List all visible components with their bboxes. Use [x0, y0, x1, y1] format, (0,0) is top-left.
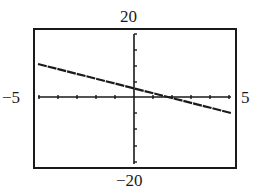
xmin-label: −5	[2, 89, 20, 106]
ymin-label: −20	[116, 172, 143, 189]
xmax-label: 5	[241, 89, 250, 106]
ymax-label: 20	[120, 8, 137, 25]
plot-area	[0, 0, 261, 190]
